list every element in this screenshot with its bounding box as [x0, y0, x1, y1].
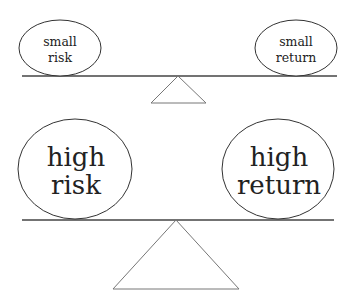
- small-risk-bubble: small risk: [19, 20, 101, 76]
- small-return-label-line2: return: [276, 50, 316, 65]
- bottom-fulcrum-triangle: [113, 220, 239, 289]
- high-risk-label-line2: risk: [51, 170, 101, 200]
- small-risk-label-line1: small: [43, 34, 77, 49]
- small-return-label-line1: small: [279, 34, 313, 49]
- high-return-bubble: high return: [222, 119, 334, 219]
- top-scale: small risk small return: [19, 20, 337, 103]
- risk-return-diagram: small risk small return high risk high r…: [0, 0, 356, 307]
- small-return-bubble: small return: [255, 20, 337, 76]
- high-risk-bubble: high risk: [18, 119, 132, 219]
- small-risk-label-line2: risk: [48, 50, 72, 65]
- top-fulcrum-triangle: [151, 76, 206, 103]
- bottom-scale: high risk high return: [18, 119, 334, 289]
- high-risk-label-line1: high: [47, 142, 106, 172]
- high-return-label-line1: high: [250, 142, 309, 172]
- high-return-label-line2: return: [237, 170, 321, 200]
